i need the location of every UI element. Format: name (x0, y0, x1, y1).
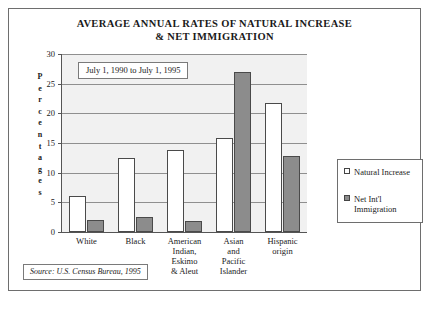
y-axis-tick-label: 20 (47, 108, 56, 118)
y-axis-title-letter: g (33, 164, 47, 176)
y-axis-tick-label: 10 (47, 168, 56, 178)
x-axis-label-line: Pacific (203, 256, 265, 266)
plot-area: 051015202530 WhiteBlackAmericanIndian,Es… (61, 54, 307, 233)
legend-label: Natural Increase (354, 167, 410, 177)
bar-group (111, 54, 160, 232)
bar-immigration (87, 220, 104, 232)
y-axis-title-letter: e (33, 83, 47, 95)
chart-title-line-2: & NET IMMIGRATION (9, 31, 420, 44)
bar-natural (167, 150, 184, 232)
bar-group (62, 54, 111, 232)
y-axis-tick-label: 0 (51, 227, 55, 237)
y-axis-title-letter: r (33, 94, 47, 106)
legend-swatch-icon (344, 195, 350, 201)
y-axis-title-letter: a (33, 152, 47, 164)
legend-label: Net Int'lImmigration (354, 194, 397, 214)
chart-title: AVERAGE ANNUAL RATES OF NATURAL INCREASE… (9, 18, 420, 43)
date-range-annotation: July 1, 1990 to July 1, 1995 (78, 62, 188, 79)
chart-frame: AVERAGE ANNUAL RATES OF NATURAL INCREASE… (8, 8, 421, 291)
bar-natural (216, 138, 233, 232)
chart-title-line-1: AVERAGE ANNUAL RATES OF NATURAL INCREASE (77, 18, 352, 29)
bar-natural (118, 158, 135, 232)
y-axis-tick-label: 30 (47, 49, 56, 59)
y-axis-title-letter: n (33, 129, 47, 141)
y-axis-tick-label: 25 (47, 79, 56, 89)
source-note: Source: U.S. Census Bureau, 1995 (23, 264, 148, 280)
bar-natural (265, 103, 282, 232)
y-axis-title-letter: e (33, 117, 47, 129)
legend-item[interactable]: Natural Increase (344, 167, 416, 177)
y-axis-title-letter: P (33, 71, 47, 83)
chart-legend: Natural IncreaseNet Int'lImmigration (337, 159, 423, 223)
legend-label-line: Immigration (354, 204, 397, 214)
bar-immigration (136, 217, 153, 232)
y-axis-title-letter: e (33, 175, 47, 187)
bar-group (160, 54, 209, 232)
y-axis-title: Percentages (33, 71, 47, 199)
bar-natural (69, 196, 86, 232)
legend-label-line: Net Int'l (354, 194, 397, 204)
x-axis-label-line: Hispanic (252, 236, 314, 246)
legend-label-line: Natural Increase (354, 167, 410, 177)
legend-swatch-icon (344, 168, 350, 174)
y-axis-tick-mark (58, 232, 62, 233)
y-axis-title-letter: c (33, 106, 47, 118)
y-axis-tick-label: 5 (51, 197, 55, 207)
y-axis-tick-label: 15 (47, 138, 56, 148)
bar-group (258, 54, 307, 232)
x-axis-label-line: origin (252, 246, 314, 256)
bar-immigration (283, 156, 300, 232)
bar-immigration (234, 72, 251, 232)
x-axis-label-line: Islander (203, 266, 265, 276)
legend-item[interactable]: Net Int'lImmigration (344, 194, 416, 214)
bar-immigration (185, 221, 202, 232)
x-axis-label: Hispanicorigin (252, 236, 314, 256)
y-axis-title-letter: t (33, 141, 47, 153)
y-axis-title-letter: s (33, 187, 47, 199)
bar-group (209, 54, 258, 232)
